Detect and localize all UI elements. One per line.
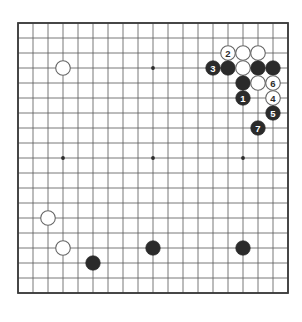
stone-disc <box>221 61 236 76</box>
stone-disc <box>146 241 161 256</box>
white-stone[interactable] <box>236 61 251 76</box>
white-stone[interactable]: 6 <box>266 76 281 91</box>
white-stone[interactable]: 4 <box>266 91 281 106</box>
stone-disc <box>266 91 281 106</box>
stone-disc <box>266 61 281 76</box>
stone-disc <box>236 61 251 76</box>
white-stone[interactable] <box>236 46 251 61</box>
black-stone[interactable]: 3 <box>206 61 221 76</box>
black-stone[interactable] <box>236 76 251 91</box>
black-stone[interactable] <box>86 256 101 271</box>
black-stone[interactable] <box>221 61 236 76</box>
stone-disc <box>251 76 266 91</box>
star-point <box>151 156 155 160</box>
black-stone[interactable] <box>236 241 251 256</box>
white-stone[interactable] <box>56 61 71 76</box>
go-diagram-page: 2361457 <box>0 0 302 322</box>
stone-disc <box>251 46 266 61</box>
star-point <box>241 156 245 160</box>
white-stone[interactable] <box>251 46 266 61</box>
white-stone[interactable] <box>41 211 56 226</box>
stone-disc <box>266 106 281 121</box>
black-stone[interactable] <box>266 61 281 76</box>
black-stone[interactable]: 7 <box>251 121 266 136</box>
black-stone[interactable] <box>251 61 266 76</box>
stone-disc <box>41 211 56 226</box>
stone-disc <box>86 256 101 271</box>
stone-disc <box>206 61 221 76</box>
stone-disc <box>56 61 71 76</box>
stone-disc <box>236 241 251 256</box>
black-stone[interactable]: 1 <box>236 91 251 106</box>
star-point <box>151 66 155 70</box>
stone-disc <box>236 91 251 106</box>
stone-disc <box>56 241 71 256</box>
white-stone[interactable]: 2 <box>221 46 236 61</box>
black-stone[interactable]: 5 <box>266 106 281 121</box>
go-board-svg[interactable]: 2361457 <box>0 0 302 322</box>
stone-disc <box>221 46 236 61</box>
stone-disc <box>266 76 281 91</box>
stone-disc <box>236 46 251 61</box>
stone-disc <box>251 61 266 76</box>
go-board-container[interactable]: 2361457 <box>0 0 302 322</box>
stone-disc <box>251 121 266 136</box>
white-stone[interactable] <box>56 241 71 256</box>
star-point <box>61 156 65 160</box>
white-stone[interactable] <box>251 76 266 91</box>
black-stone[interactable] <box>146 241 161 256</box>
stone-disc <box>236 76 251 91</box>
